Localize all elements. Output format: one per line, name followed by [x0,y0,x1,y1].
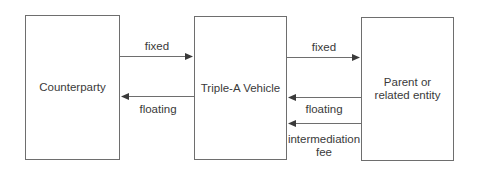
edge-label-fixed-left: fixed [140,40,174,53]
arrowhead-floating-left-icon [121,93,129,100]
arrowhead-fixed-left-icon [185,53,193,60]
edge-label-floating-right: floating [299,103,349,116]
edge-label-intermediation: intermediation [288,133,360,145]
edge-label-floating-left: floating [133,103,183,116]
edge-label-fixed-right: fixed [307,41,341,54]
arrowhead-fixed-right-icon [352,54,360,61]
arrowhead-floating-right-icon [288,94,296,101]
arrows-layer [0,0,477,179]
arrowhead-intermediation-fee-icon [288,120,296,127]
edge-label-intermediation-fee: intermediation fee [287,133,361,159]
edge-label-fee: fee [316,146,332,158]
